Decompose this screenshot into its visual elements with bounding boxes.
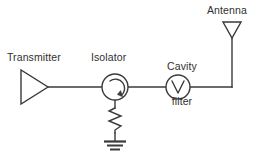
- antenna-triangle-symbol: [223, 22, 241, 38]
- transmitter-triangle-symbol: [21, 70, 48, 104]
- ground-symbol: [104, 142, 126, 150]
- circuit-schematic-svg: [0, 0, 261, 161]
- label-isolator: Isolator: [91, 52, 126, 64]
- termination-resistor-zigzag: [109, 108, 121, 133]
- rf-chain-block-diagram: Transmitter Isolator Cavity filter Anten…: [0, 0, 261, 161]
- label-transmitter: Transmitter: [7, 52, 61, 64]
- label-cavity-filter: Cavity filter: [156, 38, 208, 130]
- label-cavity-filter-line1: Cavity: [156, 61, 208, 73]
- label-antenna: Antenna: [207, 5, 247, 17]
- label-cavity-filter-line2: filter: [156, 96, 208, 108]
